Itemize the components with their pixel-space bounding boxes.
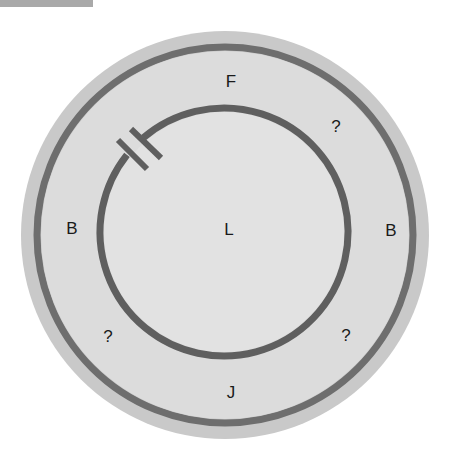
label-center: L bbox=[224, 220, 233, 239]
label-top: F bbox=[226, 72, 236, 91]
label-top-right: ? bbox=[331, 117, 340, 136]
label-right: B bbox=[385, 221, 396, 240]
circuit-diagram: F ? B B ? ? J L bbox=[0, 0, 452, 465]
label-bottom-right: ? bbox=[341, 326, 350, 345]
label-bottom: J bbox=[227, 383, 236, 402]
label-bottom-left: ? bbox=[103, 327, 112, 346]
label-left: B bbox=[66, 219, 77, 238]
